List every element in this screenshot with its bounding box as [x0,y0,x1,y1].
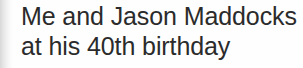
page-edge-shadow [0,0,13,68]
scanned-caption-surface: Me and Jason Maddocks at his 40th birthd… [0,0,303,68]
photo-caption: Me and Jason Maddocks at his 40th birthd… [21,1,299,61]
caption-line-2: at his 40th birthday [21,31,299,61]
caption-line-1: Me and Jason Maddocks [21,1,299,31]
